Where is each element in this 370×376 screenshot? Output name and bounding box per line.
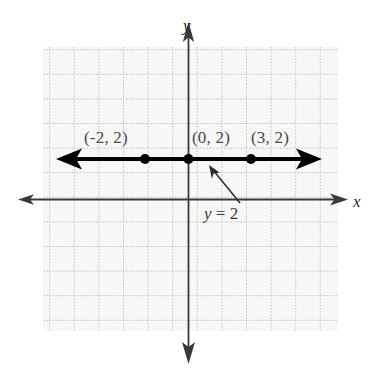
x-axis-label: x (353, 192, 361, 212)
point-marker-0-2 (184, 154, 194, 164)
y-axis-label: y (183, 16, 191, 36)
point-label-neg2-2: (-2, 2) (84, 128, 128, 148)
point-marker-3-2 (246, 154, 256, 164)
equation-label: y = 2 (204, 204, 238, 224)
point-marker-neg2-2 (140, 154, 150, 164)
point-label-3-2: (3, 2) (251, 128, 289, 148)
equation-variable: y (204, 204, 212, 223)
graph-figure: (-2, 2) (0, 2) (3, 2) y x y = 2 (0, 0, 370, 376)
equation-value: 2 (230, 204, 239, 223)
coordinate-plane-svg (0, 0, 370, 376)
point-label-0-2: (0, 2) (192, 128, 230, 148)
grid-overlay (43, 47, 338, 331)
equation-relation: = (212, 204, 230, 223)
